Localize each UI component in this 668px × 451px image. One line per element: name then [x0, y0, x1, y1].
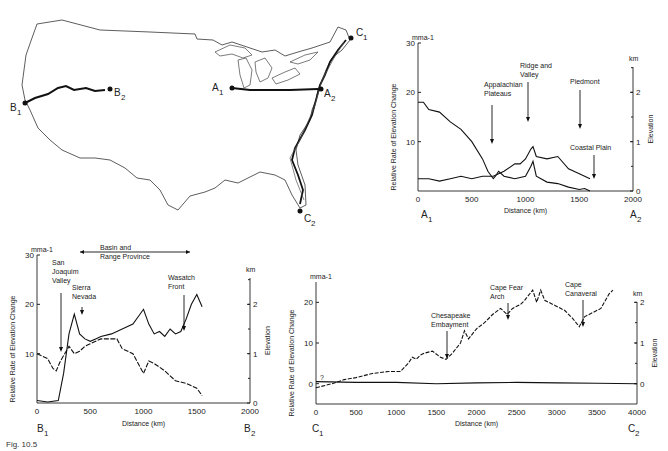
- annotation: CapeCanaveral: [565, 281, 597, 327]
- arrow-down-icon: [526, 117, 530, 122]
- y2-unit: km: [629, 55, 639, 62]
- svg-text:2: 2: [311, 219, 316, 228]
- svg-text:A: A: [421, 209, 428, 220]
- y-tick-label: 10: [304, 339, 313, 348]
- svg-text:B: B: [37, 423, 44, 434]
- arrow-down-icon: [490, 139, 494, 144]
- map-label-a1: A1: [212, 82, 224, 97]
- arrow-down-icon: [506, 315, 510, 320]
- svg-text:San: San: [52, 259, 65, 266]
- y2-tick-label: 0: [253, 399, 258, 408]
- y2-unit: km: [246, 266, 256, 273]
- x-tick-label: 500: [465, 195, 479, 204]
- x-tick-label: 2000: [468, 408, 486, 417]
- map-label-c1: C1: [356, 27, 368, 42]
- x-tick-label: 0: [314, 408, 319, 417]
- svg-text:A: A: [630, 209, 637, 220]
- series-rate: [418, 102, 590, 191]
- svg-text:Appalachian: Appalachian: [484, 81, 523, 89]
- x-tick-label: 2000: [624, 195, 642, 204]
- annotation: ?: [320, 374, 324, 381]
- x-axis-label: Distance (km): [504, 207, 547, 215]
- svg-text:Plateaus: Plateaus: [484, 90, 512, 97]
- annotation: Basin andRange Province: [80, 244, 190, 261]
- y2-tick-label: 0: [640, 380, 645, 389]
- svg-text:Basin and: Basin and: [100, 244, 131, 251]
- svg-text:Range Province: Range Province: [100, 253, 150, 261]
- y2-axis-label: Elevation: [647, 114, 654, 143]
- svg-text:Valley: Valley: [520, 71, 539, 79]
- svg-text:Piedmont: Piedmont: [570, 78, 600, 85]
- endpoint-c2: C2: [628, 423, 640, 438]
- annotation: SanJoaquimValley: [52, 259, 79, 352]
- endpoint-marker-b2: [108, 87, 113, 92]
- arrow-down-icon: [445, 354, 449, 359]
- endpoint-marker-c2: [298, 209, 303, 214]
- annotation: Ridge andValley: [520, 62, 552, 122]
- map-label-a2: A2: [324, 88, 336, 103]
- endpoint-b1: B1: [37, 423, 49, 438]
- annotation: AppalachianPlateaus: [484, 81, 523, 144]
- endpoint-a1: A1: [421, 209, 433, 224]
- y-axis-label: Relative Rate of Elevation Change: [9, 295, 17, 402]
- svg-text:1: 1: [319, 429, 324, 438]
- x-tick-label: 500: [349, 408, 363, 417]
- y-tick-label: 20: [304, 298, 313, 307]
- arrow-down-icon: [578, 124, 582, 129]
- y-axis-label: Relative Rate of Elevation Change: [288, 309, 296, 416]
- y-tick-label: 20: [406, 88, 415, 97]
- x-tick-label: 3500: [588, 408, 606, 417]
- svg-text:1: 1: [428, 215, 433, 224]
- y2-tick-label: 2: [636, 88, 641, 97]
- x-tick-label: 1000: [135, 407, 153, 416]
- y2-unit: km: [633, 290, 643, 297]
- svg-text:B: B: [114, 87, 121, 98]
- x-tick-label: 1500: [570, 195, 588, 204]
- svg-text:Embayment: Embayment: [431, 321, 468, 329]
- series-elevation: [316, 382, 637, 384]
- svg-text:Sierra: Sierra: [72, 284, 91, 291]
- endpoint-c1: C1: [312, 423, 324, 438]
- y2-tick-label: 2: [253, 300, 258, 309]
- y2-tick-label: 1: [640, 339, 645, 348]
- svg-text:1: 1: [17, 108, 22, 117]
- chart-profile-C: 0500100015002000250030003500400001020012…: [288, 273, 658, 438]
- x-axis-label: Distance (km): [455, 420, 498, 428]
- x-tick-label: 2000: [241, 407, 259, 416]
- svg-text:Nevada: Nevada: [72, 293, 96, 300]
- svg-text:Valley: Valley: [52, 277, 71, 285]
- x-axis-label: Distance (km): [122, 420, 165, 428]
- x-tick-label: 1500: [188, 407, 206, 416]
- svg-text:Cape: Cape: [565, 281, 582, 289]
- annotation: Piedmont: [570, 78, 600, 129]
- endpoint-a2: A2: [630, 209, 642, 224]
- endpoint-marker-b1: [23, 101, 28, 106]
- figure-caption: Fig. 10.5: [6, 440, 37, 449]
- y-axis-label: Relative Rate of Elevation Change: [390, 83, 398, 190]
- svg-text:Cape Fear: Cape Fear: [490, 284, 524, 292]
- y2-tick-label: 1: [636, 138, 641, 147]
- svg-text:Joaquim: Joaquim: [52, 268, 79, 276]
- x-tick-label: 500: [84, 407, 98, 416]
- endpoint-marker-a2: [319, 87, 324, 92]
- svg-text:1: 1: [363, 33, 368, 42]
- chart-profile-A: 0500100015002000102030012mma-1kmDistance…: [390, 34, 654, 224]
- annotation: SierraNevada: [72, 284, 96, 315]
- svg-text:B: B: [10, 102, 17, 113]
- svg-text:2: 2: [251, 429, 256, 438]
- y2-tick-label: 0: [636, 187, 641, 196]
- arrow-down-icon: [592, 174, 596, 179]
- x-tick-label: 4000: [628, 408, 646, 417]
- map-label-b1: B1: [10, 102, 22, 117]
- svg-text:A: A: [324, 88, 331, 99]
- y-tick-label: 10: [406, 138, 415, 147]
- svg-text:Arch: Arch: [490, 293, 505, 300]
- y-unit: mma-1: [310, 273, 332, 280]
- map-label-c2: C2: [304, 213, 316, 228]
- annotation: Cape FearArch: [490, 284, 524, 320]
- x-tick-label: 0: [416, 195, 421, 204]
- svg-text:2: 2: [635, 429, 640, 438]
- arrow-down-icon: [59, 347, 63, 352]
- x-tick-label: 0: [35, 407, 40, 416]
- x-tick-label: 1000: [517, 195, 535, 204]
